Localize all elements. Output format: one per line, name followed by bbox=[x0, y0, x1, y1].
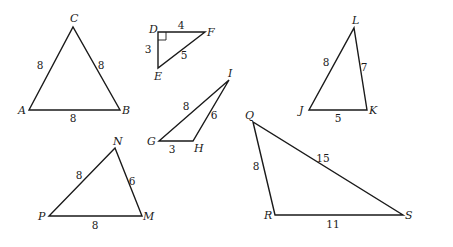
triangles-figure: ABC888DEF435GHI863JKL875PMN868QRS81511 bbox=[0, 0, 453, 247]
triangle-outline bbox=[309, 28, 367, 110]
vertex-label-a: A bbox=[17, 104, 26, 117]
vertex-label-h: H bbox=[193, 142, 204, 155]
vertex-label-i: I bbox=[227, 67, 233, 80]
side-length-ac: 8 bbox=[37, 59, 44, 71]
side-length-lk: 7 bbox=[361, 61, 368, 73]
side-length-ab: 8 bbox=[70, 112, 77, 124]
triangle-outline bbox=[159, 80, 229, 141]
vertex-label-q: Q bbox=[245, 109, 254, 122]
side-length-gi: 8 bbox=[183, 100, 190, 112]
vertex-label-k: K bbox=[368, 104, 378, 117]
vertex-label-p: P bbox=[37, 210, 46, 223]
vertex-label-l: L bbox=[351, 14, 359, 27]
side-length-nm: 6 bbox=[129, 175, 136, 187]
vertex-label-f: F bbox=[206, 26, 215, 39]
side-length-jl: 8 bbox=[323, 56, 330, 68]
vertex-label-r: R bbox=[263, 209, 272, 222]
side-length-de: 3 bbox=[145, 43, 152, 55]
side-length-gh: 3 bbox=[169, 143, 176, 155]
right-angle-mark bbox=[158, 32, 166, 40]
triangles-svg: ABC888DEF435GHI863JKL875PMN868QRS81511 bbox=[0, 0, 453, 247]
vertex-label-g: G bbox=[147, 135, 156, 148]
side-length-qr: 8 bbox=[253, 160, 260, 172]
vertex-label-m: M bbox=[142, 210, 155, 223]
vertex-label-s: S bbox=[405, 209, 413, 222]
side-length-rs: 11 bbox=[326, 218, 339, 230]
triangle-abc: ABC888 bbox=[17, 12, 130, 124]
vertex-label-d: D bbox=[148, 23, 158, 36]
vertex-label-b: B bbox=[121, 104, 130, 117]
vertex-label-e: E bbox=[153, 70, 162, 83]
side-length-hi: 6 bbox=[211, 109, 218, 121]
side-length-df: 4 bbox=[178, 19, 185, 31]
side-length-cb: 8 bbox=[98, 59, 105, 71]
side-length-pm: 8 bbox=[92, 219, 99, 231]
side-length-pn: 8 bbox=[76, 169, 83, 181]
triangle-def: DEF435 bbox=[145, 19, 215, 83]
triangle-mnp: PMN868 bbox=[37, 135, 155, 231]
side-length-jk: 5 bbox=[335, 112, 342, 124]
side-length-ef: 5 bbox=[181, 49, 188, 61]
vertex-label-c: C bbox=[70, 12, 79, 25]
triangle-jkl: JKL875 bbox=[297, 14, 378, 124]
triangle-outline bbox=[253, 122, 403, 215]
vertex-label-n: N bbox=[112, 135, 123, 148]
triangle-qrs: QRS81511 bbox=[245, 109, 413, 230]
side-length-qs: 15 bbox=[316, 152, 329, 164]
vertex-label-j: J bbox=[297, 104, 304, 117]
